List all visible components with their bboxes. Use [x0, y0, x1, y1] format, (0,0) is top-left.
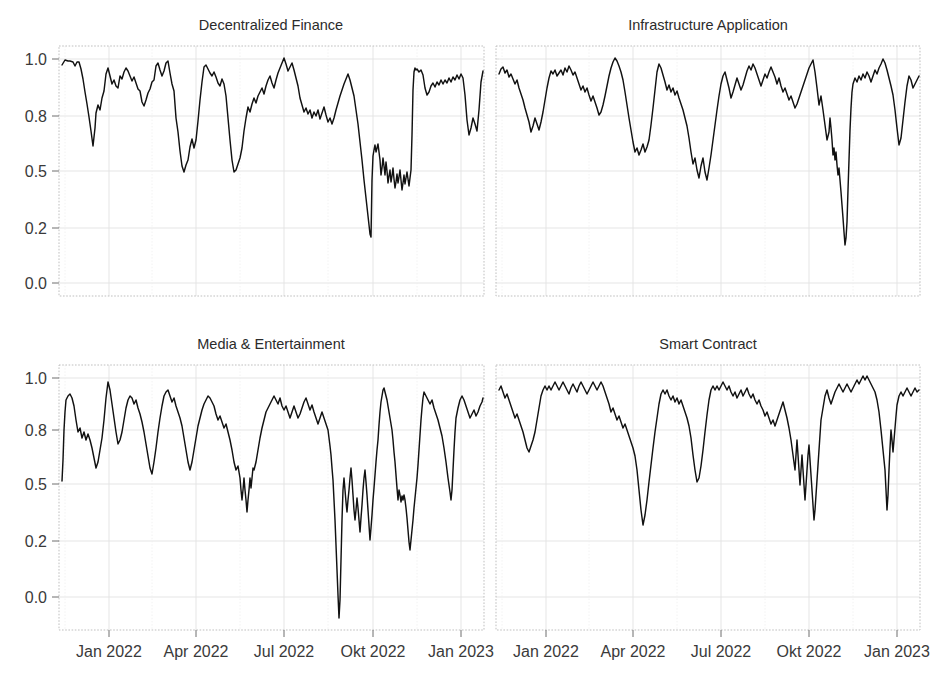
ytick-label-bl-4: 0.0: [25, 589, 47, 606]
facet-chart-figure: Decentralized Finance: [0, 0, 937, 686]
panel-title-decentralized-finance: Decentralized Finance: [199, 17, 343, 33]
xtick-label-br-1: Apr 2022: [601, 643, 666, 660]
panel-smart-contract: Smart Contract: [496, 336, 930, 660]
ytick-label-tl-3: 0.2: [25, 220, 47, 237]
ytick-label-bl-1: 0.8: [25, 422, 47, 439]
ytick-label-bl-0: 1.0: [25, 370, 47, 387]
xtick-label-bl-2: Jul 2022: [254, 643, 315, 660]
ytick-label-bl-3: 0.2: [25, 533, 47, 550]
panel-infrastructure-application: Infrastructure Application: [496, 17, 920, 296]
xtick-label-bl-0: Jan 2022: [76, 643, 142, 660]
xtick-label-br-3: Okt 2022: [777, 643, 842, 660]
xtick-label-bl-4: Jan 2023: [428, 643, 494, 660]
xtick-label-br-2: Jul 2022: [691, 643, 752, 660]
ytick-label-tl-0: 1.0: [25, 51, 47, 68]
panel-decentralized-finance: Decentralized Finance: [25, 17, 484, 296]
ytick-label-tl-2: 0.5: [25, 163, 47, 180]
panel-media-entertainment: Media & Entertainment: [25, 336, 494, 660]
xtick-label-br-0: Jan 2022: [513, 643, 579, 660]
xtick-label-br-4: Jan 2023: [864, 643, 930, 660]
panel-title-media-entertainment: Media & Entertainment: [197, 336, 345, 352]
ytick-label-tl-1: 0.8: [25, 108, 47, 125]
plot-background-bl: [59, 365, 484, 630]
ytick-label-bl-2: 0.5: [25, 476, 47, 493]
xtick-label-bl-3: Okt 2022: [341, 643, 406, 660]
panel-title-infrastructure-application: Infrastructure Application: [628, 17, 788, 33]
ytick-label-tl-4: 0.0: [25, 275, 47, 292]
panel-title-smart-contract: Smart Contract: [659, 336, 757, 352]
xtick-label-bl-1: Apr 2022: [164, 643, 229, 660]
